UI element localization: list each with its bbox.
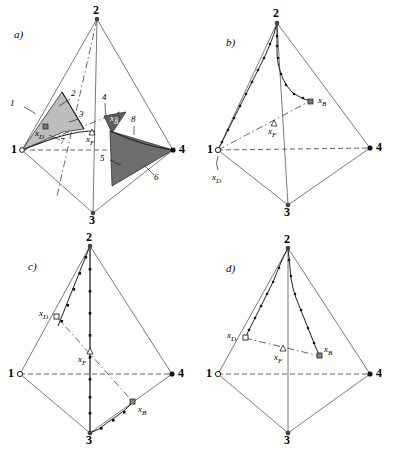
callout-5: 5 <box>100 153 105 163</box>
vertex-label-4: 4 <box>178 366 184 381</box>
marker-label-xd: xD <box>39 308 48 321</box>
vertex-2-dot <box>275 21 280 26</box>
marker-label-xf: xF <box>274 352 282 365</box>
marker-xd <box>243 335 248 340</box>
panel-b: b) 1 2 3 4 xD xF xB <box>198 0 396 228</box>
vertex-4-dot <box>367 145 372 150</box>
panel-label-d: d) <box>226 262 235 274</box>
panel-d: d) 1 2 3 4 xD xF xB <box>198 228 396 456</box>
vertex-label-3: 3 <box>284 205 290 220</box>
callout-3: 3 <box>79 109 84 119</box>
vertex-4-dot <box>170 147 175 152</box>
profile-points <box>221 35 305 144</box>
vertex-label-3: 3 <box>86 433 92 448</box>
vertex-1-dot <box>215 371 220 376</box>
callout-2: 2 <box>71 88 76 98</box>
vertex-label-1: 1 <box>8 366 14 381</box>
panel-a: a) 1 2 3 4 xD xF xB 1 2 3 4 5 6 7 8 <box>0 0 198 228</box>
vertex-label-3: 3 <box>89 213 95 228</box>
tetrahedron-b <box>198 0 396 228</box>
marker-xf <box>280 345 286 351</box>
marker-label-xf: xF <box>268 126 276 139</box>
panel-c: c) 1 2 3 4 xD xF xB <box>0 228 198 456</box>
vertex-label-1: 1 <box>206 366 212 381</box>
marker-xb <box>308 99 313 104</box>
rectifying-region <box>22 92 84 150</box>
vertex-label-4: 4 <box>179 142 185 157</box>
panel-label-b: b) <box>226 36 235 48</box>
marker-label-xd: xD <box>35 128 44 141</box>
marker-label-xd: xD <box>212 172 221 185</box>
vertex-label-1: 1 <box>207 142 213 157</box>
callout-8: 8 <box>131 114 136 124</box>
vertex-label-2: 2 <box>93 3 99 18</box>
vertex-label-2: 2 <box>273 6 279 21</box>
vertex-4-dot <box>169 371 174 376</box>
marker-label-xf: xF <box>78 354 86 367</box>
panel-label-a: a) <box>14 28 23 40</box>
vertex-1-dot <box>17 371 22 376</box>
callout-1: 1 <box>10 98 15 108</box>
marker-label-xf: xF <box>86 134 94 147</box>
stripping-region <box>110 131 173 186</box>
marker-xd <box>54 314 59 319</box>
vertex-1-dot <box>20 148 25 153</box>
marker-xb <box>317 353 322 358</box>
panel-label-c: c) <box>28 260 37 272</box>
callout-6: 6 <box>154 172 159 182</box>
marker-label-xb: xB <box>318 95 326 108</box>
vertex-label-4: 4 <box>376 140 382 155</box>
tetrahedron-a <box>0 0 198 228</box>
vertex-4-dot <box>367 371 372 376</box>
vertex-label-2: 2 <box>86 230 92 245</box>
vertex-label-1: 1 <box>11 142 17 157</box>
callout-7: 7 <box>60 136 65 146</box>
profile-lower <box>288 248 320 356</box>
callout-4: 4 <box>102 92 107 102</box>
marker-label-xb: xB <box>324 344 332 357</box>
marker-xb <box>130 399 135 404</box>
vertex-1-dot <box>215 147 220 152</box>
marker-label-xb: xB <box>110 113 118 126</box>
marker-label-xd: xD <box>227 330 236 343</box>
vertex-label-2: 2 <box>284 232 290 247</box>
vertex-label-4: 4 <box>376 366 382 381</box>
vertex-label-3: 3 <box>284 433 290 448</box>
profile-lower <box>90 246 133 433</box>
marker-label-xb: xB <box>138 404 146 417</box>
